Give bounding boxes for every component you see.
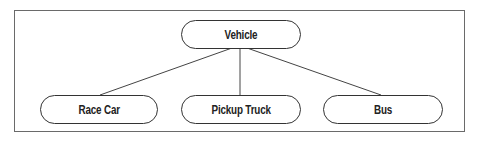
node-pickup-truck: Pickup Truck [181, 95, 301, 124]
node-race-car: Race Car [40, 95, 158, 124]
node-pickup-truck-label: Pickup Truck [211, 103, 270, 117]
node-bus: Bus [323, 95, 443, 124]
node-bus-label: Bus [374, 103, 392, 117]
link-vehicle-race-car [100, 48, 232, 95]
node-vehicle-label: Vehicle [225, 28, 258, 42]
link-vehicle-bus [247, 48, 381, 95]
node-race-car-label: Race Car [78, 103, 119, 117]
node-vehicle: Vehicle [181, 20, 301, 49]
